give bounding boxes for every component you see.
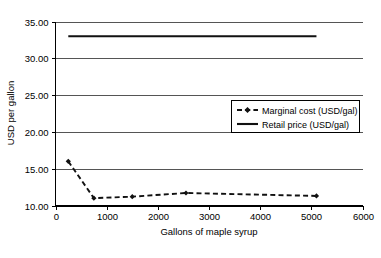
y-tick-label-25.00: 25.00 (25, 90, 49, 101)
y-tick-marks-group (52, 23, 56, 207)
x-tick-label-0: 0 (54, 211, 59, 222)
gridlines-group (56, 23, 363, 170)
series-line-marginal-cost (68, 161, 316, 198)
y-tick-labels-group: 10.0015.0020.0025.0030.0035.00 (25, 17, 49, 212)
x-tick-label-1000: 1000 (97, 211, 118, 222)
x-tick-label-4000: 4000 (250, 211, 271, 222)
y-tick-label-35.00: 35.00 (25, 17, 49, 28)
data-point-marginal-cost-4 (314, 193, 319, 198)
x-tick-label-3000: 3000 (199, 211, 220, 222)
chart-legend: Marginal cost (USD/gal) Retail price (US… (232, 101, 360, 133)
x-axis-title: Gallons of maple syrup (160, 226, 257, 237)
y-tick-label-20.00: 20.00 (25, 127, 49, 138)
y-tick-label-10.00: 10.00 (25, 201, 49, 212)
y-axis-title: USD per gallon (5, 81, 16, 145)
x-tick-label-2000: 2000 (148, 211, 169, 222)
data-point-marginal-cost-3 (183, 190, 188, 195)
x-tick-labels-group: 0100020003000400050006000 (54, 211, 374, 222)
chart-container: 10.0015.0020.0025.0030.0035.00 010002000… (0, 0, 381, 258)
y-tick-label-15.00: 15.00 (25, 164, 49, 175)
x-tick-label-6000: 6000 (353, 211, 374, 222)
x-tick-label-5000: 5000 (301, 211, 322, 222)
legend-label-marginal-cost: Marginal cost (USD/gal) (262, 106, 358, 116)
maple-syrup-cost-chart: 10.0015.0020.0025.0030.0035.00 010002000… (0, 0, 381, 258)
legend-label-retail-price: Retail price (USD/gal) (262, 120, 349, 130)
data-point-marginal-cost-2 (130, 194, 135, 199)
y-tick-label-30.00: 30.00 (25, 53, 49, 64)
